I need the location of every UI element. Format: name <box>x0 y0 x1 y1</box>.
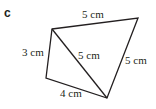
edge-label-bottom: 4 cm <box>60 88 82 99</box>
edge-label-top: 5 cm <box>82 9 104 20</box>
edge-label-diagonal: 5 cm <box>78 50 100 61</box>
edge-label-right: 5 cm <box>125 55 147 66</box>
edge-label-left: 3 cm <box>22 47 44 58</box>
geometry-figure: c 5 cm 5 cm 5 cm 3 cm 4 cm <box>0 0 156 109</box>
